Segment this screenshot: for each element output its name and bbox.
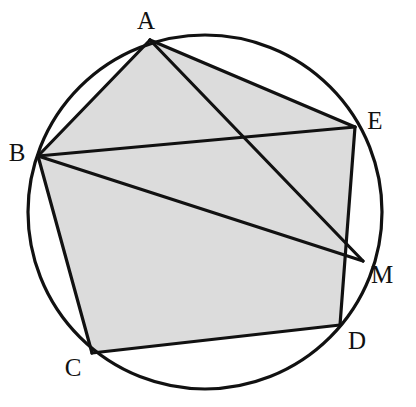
- vertex-label-d: D: [348, 328, 366, 353]
- vertex-label-a: A: [137, 8, 155, 33]
- geometry-figure: A B C D E M: [0, 0, 416, 407]
- vertex-label-m: M: [371, 262, 393, 287]
- vertex-label-c: C: [65, 355, 82, 380]
- vertex-label-b: B: [9, 140, 26, 165]
- vertex-label-e: E: [367, 108, 382, 133]
